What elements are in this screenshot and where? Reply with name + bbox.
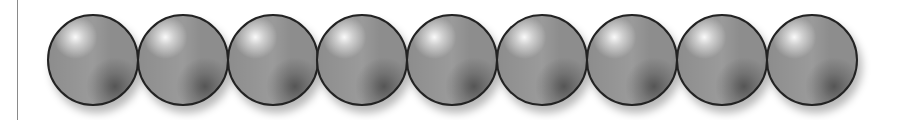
sphere-row	[0, 0, 901, 120]
sphere-2	[137, 14, 229, 106]
sphere-3	[227, 14, 319, 106]
sphere-7	[586, 14, 678, 106]
sphere-6	[496, 14, 588, 106]
sphere-4	[316, 14, 408, 106]
sphere-9	[766, 14, 858, 106]
sphere-5	[406, 14, 498, 106]
sphere-8	[676, 14, 768, 106]
sphere-1	[47, 14, 139, 106]
